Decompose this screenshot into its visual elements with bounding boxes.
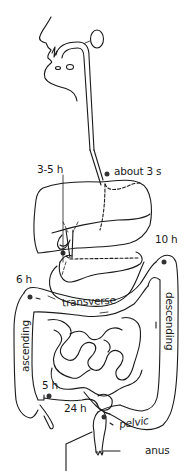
label-rectum-time: 24 h [64, 403, 87, 414]
label-transverse: transverse [62, 295, 116, 308]
label-descending: descending [165, 292, 176, 350]
esophagus [90, 150, 110, 185]
label-ascending: ascending [20, 320, 31, 372]
label-esophagus-time: about 3 s [114, 166, 161, 177]
label-cecum-time: 5 h [42, 380, 58, 391]
label-hepatic-flexure-time: 6 h [16, 274, 32, 285]
head-profile [39, 17, 103, 150]
label-stomach-time: 3-5 h [37, 164, 63, 175]
label-splenic-flexure-time: 10 h [155, 234, 178, 245]
liver [34, 180, 151, 258]
large-intestine [14, 255, 178, 455]
label-anus: anus [145, 445, 169, 456]
small-intestine [44, 317, 142, 414]
